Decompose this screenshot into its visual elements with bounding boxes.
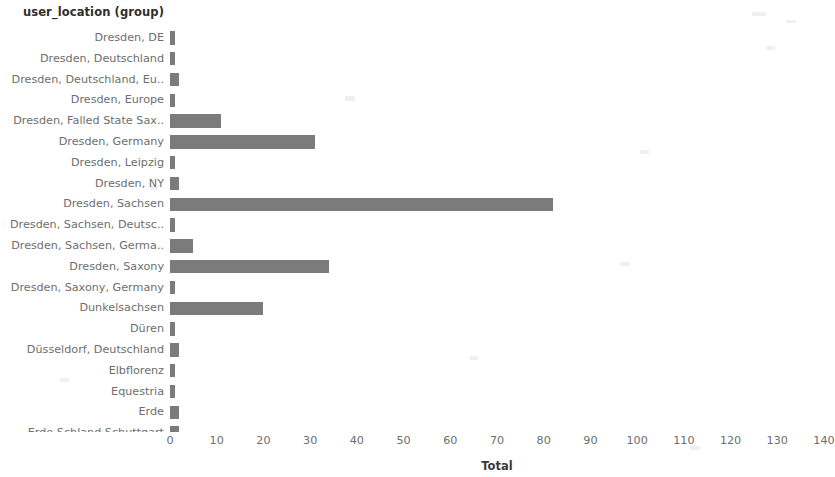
bar[interactable] — [170, 177, 179, 190]
bar[interactable] — [170, 73, 179, 86]
value-axis-tick: 0 — [166, 434, 173, 447]
bar[interactable] — [170, 156, 175, 169]
bar[interactable] — [170, 52, 175, 65]
bar[interactable] — [170, 426, 179, 432]
bar-row[interactable] — [170, 174, 824, 195]
value-axis-tick: 90 — [583, 434, 597, 447]
bar[interactable] — [170, 31, 175, 44]
bar-row[interactable] — [170, 361, 824, 382]
bar-row[interactable] — [170, 340, 824, 361]
bar[interactable] — [170, 198, 553, 211]
bar[interactable] — [170, 302, 263, 315]
value-axis-tick: 80 — [537, 434, 551, 447]
bar-row[interactable] — [170, 257, 824, 278]
value-axis-tick: 100 — [626, 434, 647, 447]
category-label: Equestria — [0, 382, 164, 403]
bar[interactable] — [170, 135, 315, 148]
value-axis-tick: 30 — [303, 434, 317, 447]
value-axis-title: Total — [170, 459, 824, 473]
bar-row[interactable] — [170, 194, 824, 215]
bar-row[interactable] — [170, 111, 824, 132]
category-label: Dresden, Europe — [0, 90, 164, 111]
bar-row[interactable] — [170, 298, 824, 319]
category-label: Erde — [0, 402, 164, 423]
value-axis-tick: 110 — [673, 434, 694, 447]
value-axis-tick: 20 — [256, 434, 270, 447]
bar[interactable] — [170, 364, 175, 377]
value-axis-tick: 10 — [210, 434, 224, 447]
bar[interactable] — [170, 406, 179, 419]
bar-row[interactable] — [170, 236, 824, 257]
value-axis-tick: 130 — [767, 434, 788, 447]
category-label: Dresden, Sachsen, Germa.. — [0, 236, 164, 257]
category-label: Dresden, DE — [0, 28, 164, 49]
value-axis-tick: 60 — [443, 434, 457, 447]
plot-area — [170, 28, 824, 432]
bar-row[interactable] — [170, 90, 824, 111]
bar-row[interactable] — [170, 215, 824, 236]
bar-rows — [170, 28, 824, 432]
bar-row[interactable] — [170, 70, 824, 91]
category-label: Dresden, Sachsen, Deutsc.. — [0, 215, 164, 236]
value-axis: 0102030405060708090100110120130140 — [170, 434, 824, 454]
bar[interactable] — [170, 385, 175, 398]
category-axis-labels: Dresden, DEDresden, DeutschlandDresden, … — [0, 28, 164, 432]
bar[interactable] — [170, 239, 193, 252]
category-label: Elbflorenz — [0, 361, 164, 382]
bar[interactable] — [170, 218, 175, 231]
bar-row[interactable] — [170, 49, 824, 70]
category-label: Dresden, Saxony, Germany — [0, 278, 164, 299]
category-label: Dresden, Leipzig — [0, 153, 164, 174]
category-label: Erde Schland Schuttgart — [0, 423, 164, 432]
bar-row[interactable] — [170, 132, 824, 153]
plot-clip: Dresden, DEDresden, DeutschlandDresden, … — [0, 0, 824, 432]
bar-row[interactable] — [170, 402, 824, 423]
value-axis-tick: 50 — [396, 434, 410, 447]
value-axis-tick: 40 — [350, 434, 364, 447]
bar[interactable] — [170, 260, 329, 273]
bar-row[interactable] — [170, 382, 824, 403]
bar[interactable] — [170, 114, 221, 127]
category-label: Dresden, Sachsen — [0, 194, 164, 215]
bar[interactable] — [170, 322, 175, 335]
value-axis-tick: 140 — [813, 434, 834, 447]
category-label: Dunkelsachsen — [0, 298, 164, 319]
category-label: Dresden, Falled State Sax.. — [0, 111, 164, 132]
bar-row[interactable] — [170, 28, 824, 49]
category-label: Dresden, Germany — [0, 132, 164, 153]
category-label: Dresden, NY — [0, 174, 164, 195]
bar-row[interactable] — [170, 423, 824, 432]
category-label: Dresden, Deutschland — [0, 49, 164, 70]
bar-row[interactable] — [170, 278, 824, 299]
bar-row[interactable] — [170, 153, 824, 174]
value-axis-tick: 70 — [490, 434, 504, 447]
value-axis-tick: 120 — [720, 434, 741, 447]
category-label: Dresden, Deutschland, Eu.. — [0, 70, 164, 91]
bar[interactable] — [170, 343, 179, 356]
category-label: Düren — [0, 319, 164, 340]
bar[interactable] — [170, 94, 175, 107]
category-label: Dresden, Saxony — [0, 257, 164, 278]
bar[interactable] — [170, 281, 175, 294]
category-label: Düsseldorf, Deutschland — [0, 340, 164, 361]
bar-row[interactable] — [170, 319, 824, 340]
